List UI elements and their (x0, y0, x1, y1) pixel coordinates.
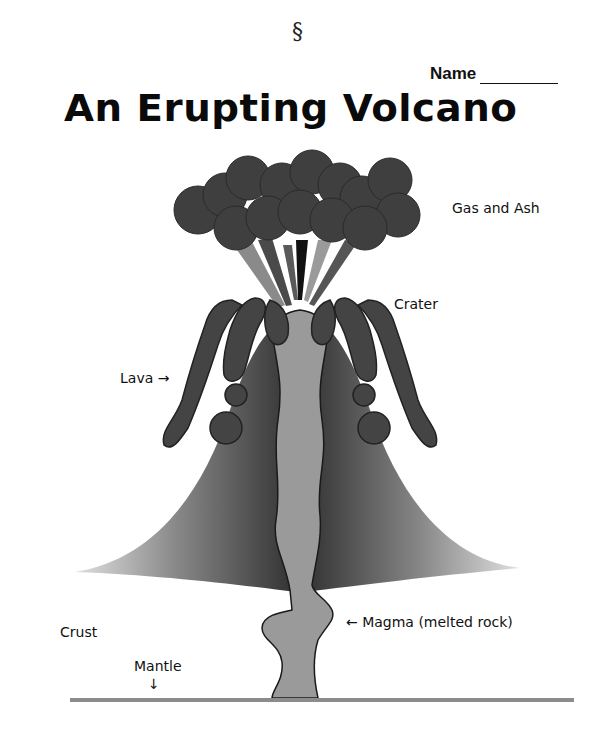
gas-jets (230, 238, 357, 308)
label-lava: Lava → (120, 370, 169, 386)
mantle-boundary-line (70, 698, 574, 702)
label-mantle: Mantle (134, 658, 182, 674)
label-gas-and-ash: Gas and Ash (452, 200, 540, 216)
mantle-arrow-icon: ↓ (148, 676, 160, 692)
ash-cloud (174, 150, 420, 250)
label-magma: ← Magma (melted rock) (346, 614, 513, 630)
label-crust: Crust (60, 624, 97, 640)
label-crater: Crater (394, 296, 438, 312)
